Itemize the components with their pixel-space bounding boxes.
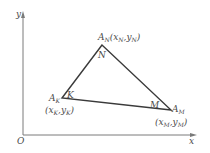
y-axis-arrow-icon [21, 11, 25, 18]
angle-N-label: N [97, 50, 107, 60]
vertex-K-coords: (xK,yK) [45, 105, 75, 116]
coordinate-diagram: y O x AN(xN,yN) N AK K (xK,yK) M AM (xM,… [0, 0, 210, 153]
vertex-M-coords: (xM,yM) [155, 117, 188, 128]
origin-label: O [17, 136, 25, 146]
vertex-K-label: AK [48, 93, 61, 104]
angle-M-label: M [149, 100, 160, 110]
angle-K-label: K [66, 90, 75, 100]
x-axis-label: x [189, 136, 194, 146]
y-axis-label: y [15, 9, 22, 19]
vertex-N-label: AN(xN,yN) [97, 32, 141, 43]
vertex-M-label: AM [171, 104, 186, 115]
